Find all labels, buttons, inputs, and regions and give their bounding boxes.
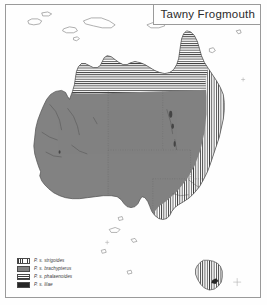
legend-item-lilae: P. s. lilae [17,281,72,288]
legend-label-strigoides: P. s. strigoides [34,258,64,264]
map-title-box: Tawny Frogmouth [153,5,260,25]
solid-fill-swatch [17,266,30,272]
dark-fill-swatch [17,282,30,288]
map-surface [6,5,260,297]
legend-label-brachypterus: P. s. brachypterus [34,266,71,272]
page-title: Tawny Frogmouth [161,8,255,20]
horizontal-hatch-swatch [17,274,30,280]
map-frame: Tawny Frogmouth P. s. strigoides P. s. b… [5,4,261,298]
legend-item-strigoides: P. s. strigoides [17,257,72,264]
legend-item-brachypterus: P. s. brachypterus [17,265,72,272]
legend-label-phalaenoides: P. s. phalaenoides [34,274,72,280]
legend-label-lilae: P. s. lilae [34,282,53,288]
australia-distribution-map [6,5,260,297]
vertical-hatch-swatch [17,258,30,264]
legend-item-phalaenoides: P. s. phalaenoides [17,273,72,280]
map-legend: P. s. strigoides P. s. brachypterus P. s… [17,257,72,288]
map-plate: Tawny Frogmouth P. s. strigoides P. s. b… [0,0,267,305]
